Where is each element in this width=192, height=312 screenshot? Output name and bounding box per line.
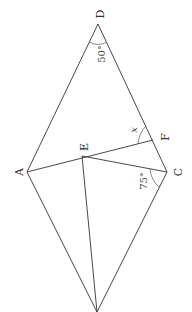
label-A: A — [13, 167, 26, 177]
segment-DC — [98, 24, 167, 172]
angle-arc-F — [138, 126, 146, 144]
label-E: E — [78, 143, 91, 151]
angle-value-D: 50° — [96, 45, 107, 63]
angle-arc-C — [150, 169, 159, 187]
segment-EB — [82, 156, 97, 312]
angle-variable-x: x — [128, 127, 139, 133]
segment-AB — [27, 172, 97, 312]
angle-arc-D — [89, 42, 107, 45]
segment-CB — [97, 172, 167, 312]
label-D: D — [94, 9, 107, 18]
label-C: C — [172, 168, 185, 176]
label-F: F — [159, 133, 172, 141]
segment-EC — [82, 156, 167, 172]
geometry-diagram: D A C F E 50° 75° x — [0, 0, 192, 312]
angle-value-C: 75° — [138, 172, 149, 190]
